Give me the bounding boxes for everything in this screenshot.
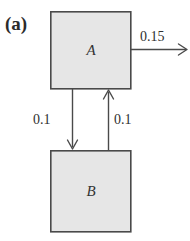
- compartment-b-label: B: [86, 183, 95, 199]
- panel-label: (a): [5, 13, 27, 35]
- compartment-diagram-figure: (a) A B 0.15 0.1 0.1: [0, 0, 190, 241]
- diagram-canvas: (a) A B 0.15 0.1 0.1: [0, 0, 190, 241]
- flow-b-to-a-label: 0.1: [114, 112, 132, 127]
- flow-a-to-b-label: 0.1: [33, 112, 51, 127]
- compartment-a-label: A: [85, 42, 96, 58]
- flow-a-out-label: 0.15: [140, 29, 165, 44]
